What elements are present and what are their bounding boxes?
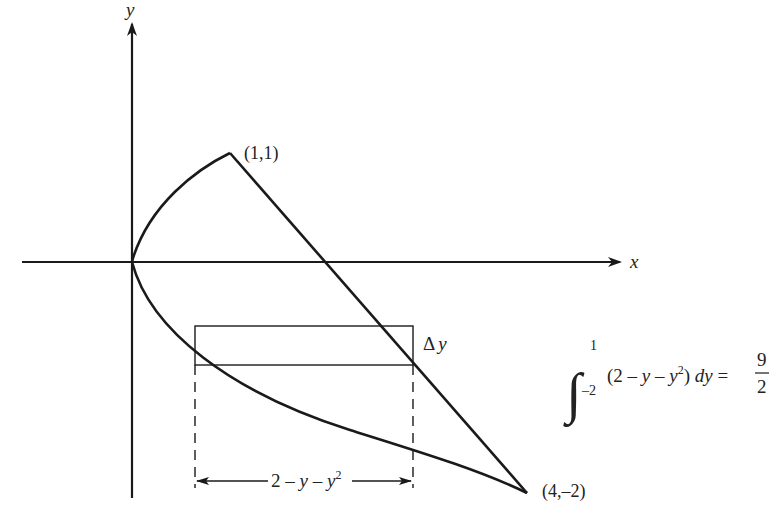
strip-rectangle: [195, 326, 413, 365]
integrand: (2 – y – y2) dy =: [607, 363, 728, 387]
line-segment: [230, 153, 527, 493]
fraction-denominator: 2: [757, 376, 767, 397]
integral-lower-limit: –2: [581, 383, 596, 398]
fraction-numerator: 9: [757, 349, 767, 370]
width-label-main: 2 – y – y: [271, 470, 336, 491]
point-label-bottom: (4,–2): [542, 481, 586, 502]
delta-y-label: Δy: [423, 333, 447, 354]
region-diagram: y x (1,1) (4,–2) Δy 2 – y – y2 ∫ 1 –2 (2…: [0, 0, 774, 506]
parabola-curve: [132, 153, 527, 493]
point-label-top: (1,1): [244, 143, 279, 164]
width-label: 2 – y – y2: [271, 468, 341, 491]
integral-upper-limit: 1: [590, 338, 597, 353]
y-axis-label: y: [124, 0, 135, 20]
x-axis-label: x: [629, 251, 639, 272]
integral-formula: ∫ 1 –2 (2 – y – y2) dy = 9 2: [563, 338, 769, 428]
